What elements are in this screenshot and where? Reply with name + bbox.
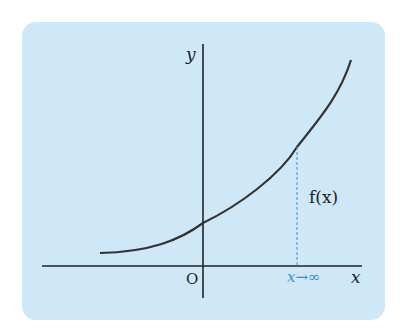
limit-arrow: →∞ [295,268,320,286]
x-axis-label: x [351,267,361,287]
limit-label: x→∞ [287,268,321,286]
y-axis-label: y [186,44,196,64]
function-label: f(x) [309,187,338,207]
graph-svg [0,0,406,332]
exponential-curve [100,60,351,253]
origin-label: O [186,270,198,288]
